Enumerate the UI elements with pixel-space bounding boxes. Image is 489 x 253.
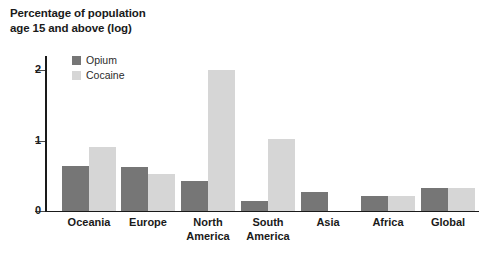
y-tick-label: 2 xyxy=(35,63,41,75)
bar-group xyxy=(421,56,475,211)
bar-opium xyxy=(181,181,208,211)
bar-group xyxy=(121,56,175,211)
bar-opium xyxy=(62,166,89,211)
bar-cocaine xyxy=(388,196,415,212)
title-line-1: Percentage of population xyxy=(10,6,270,21)
bar-opium xyxy=(241,201,268,211)
bar-cocaine xyxy=(448,188,475,211)
bar-opium xyxy=(421,188,448,211)
bar-opium xyxy=(361,196,388,211)
y-axis-line xyxy=(45,56,47,212)
bar-group xyxy=(62,56,116,211)
x-axis-line xyxy=(45,211,479,212)
page-title: Percentage of population age 15 and abov… xyxy=(10,6,270,35)
plot-area: 012 xyxy=(45,56,479,211)
title-line-2: age 15 and above (log) xyxy=(10,21,270,36)
x-axis-label: Global xyxy=(408,216,488,230)
bar-cocaine xyxy=(208,70,235,211)
bar-cocaine xyxy=(89,147,116,211)
bar-cocaine xyxy=(268,139,295,211)
bar-group xyxy=(361,56,415,211)
bar-chart: Percentage of population age 15 and abov… xyxy=(0,0,489,253)
y-tick-label: 0 xyxy=(35,204,41,216)
bar-opium xyxy=(301,192,328,211)
bar-cocaine xyxy=(148,174,175,211)
y-tick-label: 1 xyxy=(35,134,41,146)
bar-group xyxy=(241,56,295,211)
bar-group xyxy=(301,56,355,211)
bar-group xyxy=(181,56,235,211)
bar-opium xyxy=(121,167,148,211)
